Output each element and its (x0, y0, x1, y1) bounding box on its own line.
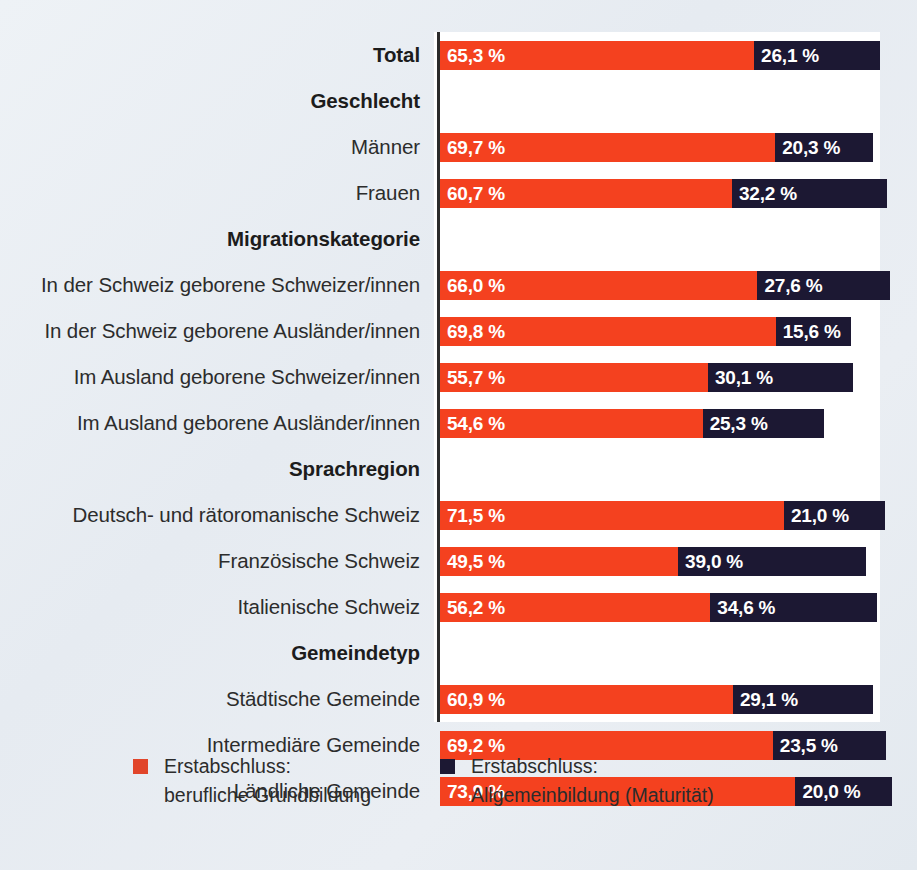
bar-value-label: 39,0 % (685, 547, 743, 576)
bar-segment-allgemeinbildung: 34,6 % (710, 593, 876, 622)
bar-rows-container: Total65,3 %26,1 %GeschlechtMänner69,7 %2… (0, 32, 917, 722)
bar-segment-allgemeinbildung: 29,1 % (733, 685, 873, 714)
stacked-bar: 71,5 %21,0 % (440, 501, 885, 530)
category-label: In der Schweiz geborene Ausländer/innen (44, 308, 420, 354)
group-heading-row: Gemeindetyp (0, 630, 917, 676)
bar-segment-allgemeinbildung: 32,2 % (732, 179, 887, 208)
legend-label-line1: Erstabschluss: (164, 752, 371, 781)
legend-swatch-icon-series-a (133, 759, 148, 774)
legend-label-line2: berufliche Grundbildung (164, 781, 371, 810)
stacked-bar: 66,0 %27,6 % (440, 271, 890, 300)
chart-page: Total65,3 %26,1 %GeschlechtMänner69,7 %2… (0, 0, 917, 870)
bar-value-label: 27,6 % (764, 271, 822, 300)
bar-segment-berufliche-grundbildung: 49,5 % (440, 547, 678, 576)
bar-value-label: 60,9 % (447, 685, 505, 714)
bar-row: Im Ausland geborene Ausländer/innen54,6 … (0, 400, 917, 446)
bar-segment-allgemeinbildung: 30,1 % (708, 363, 853, 392)
category-label: Im Ausland geborene Schweizer/innen (74, 354, 420, 400)
bar-value-label: 20,3 % (782, 133, 840, 162)
group-heading-label: Migrationskategorie (227, 216, 420, 262)
bar-segment-berufliche-grundbildung: 55,7 % (440, 363, 708, 392)
bar-value-label: 60,7 % (447, 179, 505, 208)
bar-row: Städtische Gemeinde60,9 %29,1 % (0, 676, 917, 722)
group-heading-row: Migrationskategorie (0, 216, 917, 262)
bar-value-label: 49,5 % (447, 547, 505, 576)
stacked-bar: 60,9 %29,1 % (440, 685, 873, 714)
group-heading-label: Geschlecht (310, 78, 420, 124)
stacked-bar: 69,7 %20,3 % (440, 133, 873, 162)
bar-value-label: 54,6 % (447, 409, 505, 438)
bar-row: Männer69,7 %20,3 % (0, 124, 917, 170)
bar-segment-allgemeinbildung: 21,0 % (784, 501, 885, 530)
bar-segment-allgemeinbildung: 15,6 % (776, 317, 851, 346)
category-label: Städtische Gemeinde (226, 676, 420, 722)
bar-value-label: 26,1 % (761, 41, 819, 70)
bar-value-label: 56,2 % (447, 593, 505, 622)
bar-segment-berufliche-grundbildung: 60,7 % (440, 179, 732, 208)
bar-segment-allgemeinbildung: 20,3 % (775, 133, 873, 162)
bar-value-label: 32,2 % (739, 179, 797, 208)
stacked-bar: 54,6 %25,3 % (440, 409, 824, 438)
bar-value-label: 21,0 % (791, 501, 849, 530)
bar-segment-berufliche-grundbildung: 66,0 % (440, 271, 757, 300)
group-heading-row: Geschlecht (0, 78, 917, 124)
bar-row: Deutsch- und rätoromanische Schweiz71,5 … (0, 492, 917, 538)
bar-row: In der Schweiz geborene Ausländer/innen6… (0, 308, 917, 354)
bar-value-label: 29,1 % (740, 685, 798, 714)
legend-swatch-icon-series-b (440, 759, 455, 774)
bar-value-label: 65,3 % (447, 41, 505, 70)
bar-row: Italienische Schweiz56,2 %34,6 % (0, 584, 917, 630)
bar-segment-allgemeinbildung: 27,6 % (757, 271, 890, 300)
bar-value-label: 69,7 % (447, 133, 505, 162)
bar-row: Total65,3 %26,1 % (0, 32, 917, 78)
group-heading-row: Sprachregion (0, 446, 917, 492)
bar-segment-berufliche-grundbildung: 54,6 % (440, 409, 703, 438)
bar-row: Frauen60,7 %32,2 % (0, 170, 917, 216)
bar-segment-berufliche-grundbildung: 69,7 % (440, 133, 775, 162)
category-label: In der Schweiz geborene Schweizer/innen (41, 262, 420, 308)
stacked-bar: 65,3 %26,1 % (440, 41, 880, 70)
bar-value-label: 25,3 % (710, 409, 768, 438)
category-label: Italienische Schweiz (237, 584, 420, 630)
bar-segment-berufliche-grundbildung: 60,9 % (440, 685, 733, 714)
bar-segment-berufliche-grundbildung: 65,3 % (440, 41, 754, 70)
group-heading-label: Gemeindetyp (291, 630, 420, 676)
bar-segment-allgemeinbildung: 25,3 % (703, 409, 825, 438)
category-label: Französische Schweiz (218, 538, 420, 584)
stacked-bar: 60,7 %32,2 % (440, 179, 887, 208)
bar-value-label: 34,6 % (717, 593, 775, 622)
legend-item-allgemeinbildung: Erstabschluss: Allgemeinbildung (Maturit… (440, 752, 714, 810)
stacked-bar: 56,2 %34,6 % (440, 593, 877, 622)
bar-row: Im Ausland geborene Schweizer/innen55,7 … (0, 354, 917, 400)
bar-segment-berufliche-grundbildung: 71,5 % (440, 501, 784, 530)
bar-value-label: 55,7 % (447, 363, 505, 392)
bar-segment-allgemeinbildung: 26,1 % (754, 41, 880, 70)
legend-label-line2: Allgemeinbildung (Maturität) (471, 781, 714, 810)
category-label: Deutsch- und rätoromanische Schweiz (73, 492, 420, 538)
category-label: Frauen (356, 170, 420, 216)
stacked-bar: 55,7 %30,1 % (440, 363, 853, 392)
chart-legend: Erstabschluss: berufliche Grundbildung E… (0, 752, 917, 842)
bar-value-label: 69,8 % (447, 317, 505, 346)
stacked-bar: 49,5 %39,0 % (440, 547, 866, 576)
category-label: Total (373, 32, 420, 78)
category-label: Männer (351, 124, 420, 170)
bar-row: In der Schweiz geborene Schweizer/innen6… (0, 262, 917, 308)
bar-value-label: 71,5 % (447, 501, 505, 530)
bar-segment-berufliche-grundbildung: 56,2 % (440, 593, 710, 622)
bar-row: Französische Schweiz49,5 %39,0 % (0, 538, 917, 584)
bar-segment-allgemeinbildung: 39,0 % (678, 547, 866, 576)
category-label: Im Ausland geborene Ausländer/innen (77, 400, 420, 446)
bar-segment-berufliche-grundbildung: 69,8 % (440, 317, 776, 346)
stacked-bar: 69,8 %15,6 % (440, 317, 851, 346)
bar-value-label: 15,6 % (783, 317, 841, 346)
bar-value-label: 66,0 % (447, 271, 505, 300)
legend-item-berufliche-grundbildung: Erstabschluss: berufliche Grundbildung (133, 752, 371, 810)
bar-value-label: 30,1 % (715, 363, 773, 392)
group-heading-label: Sprachregion (289, 446, 420, 492)
legend-label-line1: Erstabschluss: (471, 752, 714, 781)
